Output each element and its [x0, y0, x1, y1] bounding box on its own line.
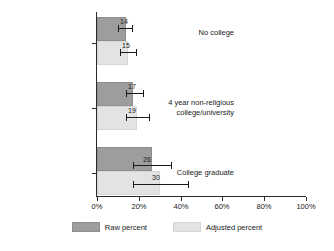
errorbar-cap-low-adjusted-four-year-college	[126, 114, 127, 121]
bar-adjusted-college-graduate	[97, 171, 160, 195]
x-axis-tick-80	[264, 197, 265, 201]
y-axis-label-college-graduate: College graduate	[177, 168, 234, 178]
errorbar-adjusted-four-year-college	[126, 117, 150, 118]
errorbar-cap-high-raw-college-graduate	[171, 162, 172, 169]
data-label-raw-no-college: 14	[120, 18, 128, 26]
errorbar-adjusted-college-graduate	[133, 184, 189, 185]
x-axis-label-0: 0%	[92, 202, 103, 211]
legend-item-adjusted-percent: Adjusted percent	[173, 222, 262, 232]
errorbar-cap-low-raw-no-college	[118, 25, 119, 32]
data-label-adjusted-no-college: 15	[122, 42, 130, 50]
errorbar-raw-four-year-college	[126, 93, 144, 94]
x-axis-tick-40	[181, 197, 182, 201]
errorbar-cap-low-adjusted-no-college	[120, 49, 121, 56]
x-axis-line	[96, 196, 306, 197]
x-axis-tick-20	[139, 197, 140, 201]
x-axis-tick-0	[97, 197, 98, 201]
errorbar-cap-high-adjusted-college-graduate	[188, 181, 189, 188]
chart-legend: Raw percent Adjusted percent	[0, 222, 334, 232]
y-axis-tick-four-year-college	[92, 108, 96, 109]
errorbar-cap-high-adjusted-four-year-college	[149, 114, 150, 121]
y-axis-tick-no-college	[92, 43, 96, 44]
x-axis-tick-60	[222, 197, 223, 201]
y-axis-label-no-college: No college	[199, 28, 234, 38]
errorbar-cap-low-raw-four-year-college	[126, 90, 127, 97]
legend-label-raw-percent: Raw percent	[105, 223, 147, 232]
errorbar-raw-no-college	[118, 28, 133, 29]
data-label-adjusted-four-year-college: 19	[128, 107, 136, 115]
bar-chart: No college 14 15 4 year non-religious co…	[0, 0, 334, 251]
errorbar-adjusted-no-college	[120, 52, 137, 53]
errorbar-cap-low-raw-college-graduate	[133, 162, 134, 169]
errorbar-cap-high-adjusted-no-college	[136, 49, 137, 56]
x-axis-label-40: 40%	[173, 202, 188, 211]
errorbar-raw-college-graduate	[133, 165, 172, 166]
errorbar-cap-high-raw-four-year-college	[143, 90, 144, 97]
x-axis-label-80: 80%	[256, 202, 271, 211]
x-axis-label-20: 20%	[131, 202, 146, 211]
legend-swatch-icon-raw-percent	[72, 222, 100, 232]
x-axis-label-100: 100%	[296, 202, 315, 211]
x-axis-label-60: 60%	[214, 202, 229, 211]
y-axis-tick-college-graduate	[92, 173, 96, 174]
errorbar-cap-high-raw-no-college	[132, 25, 133, 32]
data-label-raw-four-year-college: 17	[128, 83, 136, 91]
legend-label-adjusted-percent: Adjusted percent	[206, 223, 262, 232]
errorbar-cap-low-adjusted-college-graduate	[133, 181, 134, 188]
x-axis-tick-100	[306, 197, 307, 201]
legend-item-raw-percent: Raw percent	[72, 222, 147, 232]
y-axis-label-four-year-college: 4 year non-religious college/university	[168, 98, 234, 117]
data-label-raw-college-graduate: 26	[143, 156, 151, 164]
data-label-adjusted-college-graduate: 30	[152, 174, 160, 182]
legend-swatch-icon-adjusted-percent	[173, 222, 201, 232]
